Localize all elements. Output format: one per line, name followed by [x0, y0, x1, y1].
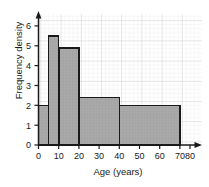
x-tick-label: 30 — [94, 151, 104, 161]
x-tick-labels: 0 10 20 30 40 50 60 70 80 — [36, 151, 195, 161]
bar-40-70 — [119, 105, 180, 145]
bar-20-40 — [79, 97, 119, 145]
x-tick-label: 60 — [155, 151, 165, 161]
x-tick-label: 0 — [36, 151, 41, 161]
y-tick-label: 0 — [26, 140, 31, 150]
y-tick-label: 3 — [26, 81, 31, 91]
y-tick-label: 4 — [26, 61, 31, 71]
y-tick-label: 2 — [26, 101, 31, 111]
x-tick-label: 40 — [114, 151, 124, 161]
x-tick-label: 70 — [175, 151, 185, 161]
y-tick-labels: 0 1 2 3 4 5 6 — [26, 21, 31, 150]
bar-0-5 — [39, 105, 49, 145]
bar-5-10 — [49, 36, 59, 145]
chart-plot-area: 0 1 2 3 4 5 6 0 10 20 30 40 50 60 70 80 — [0, 0, 209, 187]
bar-10-20 — [59, 48, 79, 145]
histogram-figure: Frequency density Age (years) — [0, 0, 209, 187]
x-tick-label: 20 — [74, 151, 84, 161]
x-tick-label: 80 — [185, 151, 195, 161]
y-tick-label: 1 — [26, 121, 31, 131]
y-tick-label: 5 — [26, 41, 31, 51]
x-tick-label: 50 — [134, 151, 144, 161]
y-tick-label: 6 — [26, 21, 31, 31]
x-tick-label: 10 — [54, 151, 64, 161]
